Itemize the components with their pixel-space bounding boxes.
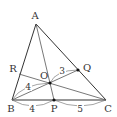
length-bo: 4	[25, 82, 31, 92]
geometry-figure: A B C P Q R O 3 4 4 5	[0, 0, 117, 117]
cevian-cr	[19, 74, 106, 100]
side-ac	[36, 24, 106, 100]
cevian-ap	[36, 24, 54, 100]
length-oq: 3	[59, 66, 65, 76]
length-bp: 4	[29, 104, 35, 114]
label-o: O	[40, 70, 48, 81]
label-p: P	[51, 103, 58, 114]
length-pc: 5	[77, 104, 83, 114]
point-o	[48, 81, 51, 84]
label-b: B	[7, 103, 14, 114]
label-r: R	[9, 63, 17, 74]
label-a: A	[30, 10, 39, 21]
point-q	[76, 68, 79, 71]
side-ab	[12, 24, 36, 100]
label-q: Q	[83, 62, 91, 73]
point-p	[52, 98, 55, 101]
label-c: C	[104, 103, 112, 114]
